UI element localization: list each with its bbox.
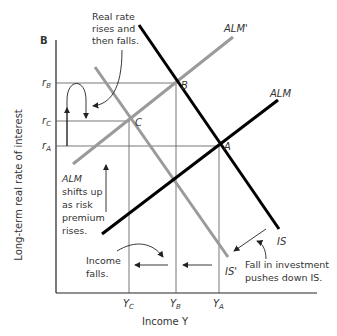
svg-text:falls.: falls.	[86, 268, 108, 279]
y-axis-label: Long-term real rate of interest	[13, 109, 24, 261]
svg-text:ALM: ALM	[61, 173, 82, 184]
is-alm-diagram: B rB rC rA YC YB YA Income Y Long-term r…	[0, 0, 337, 336]
svg-text:then falls.: then falls.	[92, 35, 139, 46]
arrows	[67, 50, 266, 265]
panel-label: B	[40, 35, 48, 46]
alm-prime-label: ALM'	[223, 23, 248, 34]
tick-ya: YA	[213, 298, 224, 311]
income-curved-arrow	[117, 244, 163, 257]
is-shift-arrow	[234, 229, 266, 251]
svg-text:premium: premium	[62, 212, 105, 223]
is-prime-label: IS'	[225, 266, 237, 277]
real-rate-note: Real rate rises and then falls.	[92, 11, 139, 46]
x-tick-labels: YC YB YA	[123, 298, 224, 311]
alm-label: ALM	[269, 88, 291, 99]
tick-rb: rB	[42, 77, 51, 90]
svg-text:rises and: rises and	[92, 23, 135, 34]
svg-text:Income: Income	[86, 255, 121, 266]
y-tick-labels: rB rC rA	[42, 77, 51, 153]
svg-text:rises.: rises.	[62, 225, 87, 236]
point-a-label: A	[223, 141, 231, 152]
tick-rc: rC	[42, 115, 51, 128]
investment-note: Fall in investment pushes down IS.	[245, 259, 329, 283]
investment-pointer-arrow	[257, 241, 266, 259]
x-axis-label: Income Y	[142, 316, 189, 327]
is-label: IS	[277, 236, 287, 247]
svg-text:as risk: as risk	[62, 199, 93, 210]
alm-shift-note: ALM shifts up as risk premium rises.	[61, 173, 105, 236]
svg-text:shifts up: shifts up	[62, 186, 103, 197]
svg-text:Fall in investment: Fall in investment	[245, 259, 329, 270]
point-b-label: B	[181, 80, 188, 91]
loop-arrow	[67, 84, 86, 147]
tick-ra: rA	[42, 140, 51, 153]
tick-yb: YB	[170, 298, 181, 311]
tick-yc: YC	[123, 298, 134, 311]
svg-text:Real rate: Real rate	[92, 11, 135, 22]
alm-prime-curve	[73, 37, 233, 164]
point-c-label: C	[135, 117, 142, 128]
income-falls-note: Income falls.	[86, 255, 121, 279]
svg-text:pushes down IS.: pushes down IS.	[245, 272, 322, 283]
